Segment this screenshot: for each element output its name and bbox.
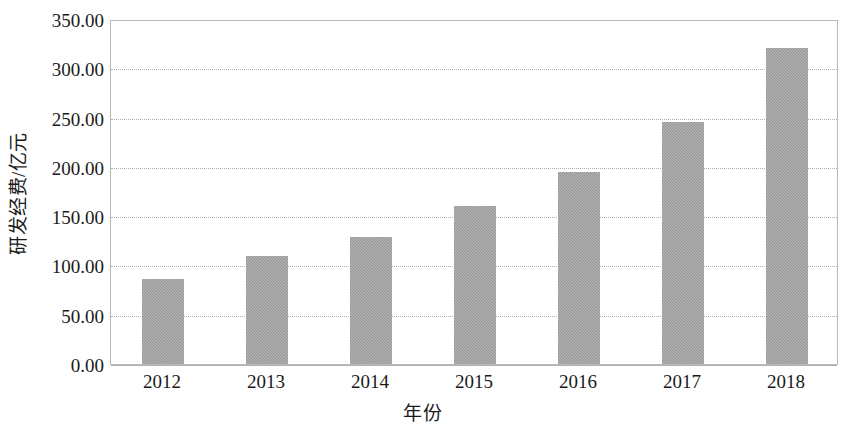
bar <box>142 279 184 364</box>
x-axis-title: 年份 <box>0 398 845 425</box>
x-axis-tick-label: 2018 <box>734 370 838 394</box>
bar <box>454 206 496 364</box>
bars <box>111 21 837 364</box>
plot-area <box>110 20 838 365</box>
y-axis-tick-label: 50.00 <box>0 307 104 326</box>
y-axis-tick-label: 100.00 <box>0 257 104 276</box>
bar-chart: 研发经费/亿元 0.0050.00100.00150.00200.00250.0… <box>0 0 845 425</box>
x-axis-tick-labels: 2012201320142015201620172018 <box>110 370 838 398</box>
x-axis-tick-label: 2012 <box>110 370 214 394</box>
y-axis-tick-label: 250.00 <box>0 110 104 129</box>
bar <box>350 237 392 364</box>
y-axis-tick-labels: 0.0050.00100.00150.00200.00250.00300.003… <box>0 0 104 425</box>
x-axis-tick-label: 2014 <box>318 370 422 394</box>
y-axis-tick-label: 300.00 <box>0 60 104 79</box>
y-axis-tick-label: 200.00 <box>0 159 104 178</box>
x-axis-tick-label: 2016 <box>526 370 630 394</box>
x-axis-tick-label: 2013 <box>214 370 318 394</box>
y-axis-tick-label: 150.00 <box>0 208 104 227</box>
bar <box>558 172 600 364</box>
bar <box>766 48 808 364</box>
y-axis-tick-label: 0.00 <box>0 356 104 375</box>
bar <box>662 122 704 364</box>
gridline <box>111 365 837 366</box>
x-axis-tick-label: 2015 <box>422 370 526 394</box>
x-axis-tick-label: 2017 <box>630 370 734 394</box>
bar <box>246 256 288 364</box>
y-axis-tick-label: 350.00 <box>0 11 104 30</box>
